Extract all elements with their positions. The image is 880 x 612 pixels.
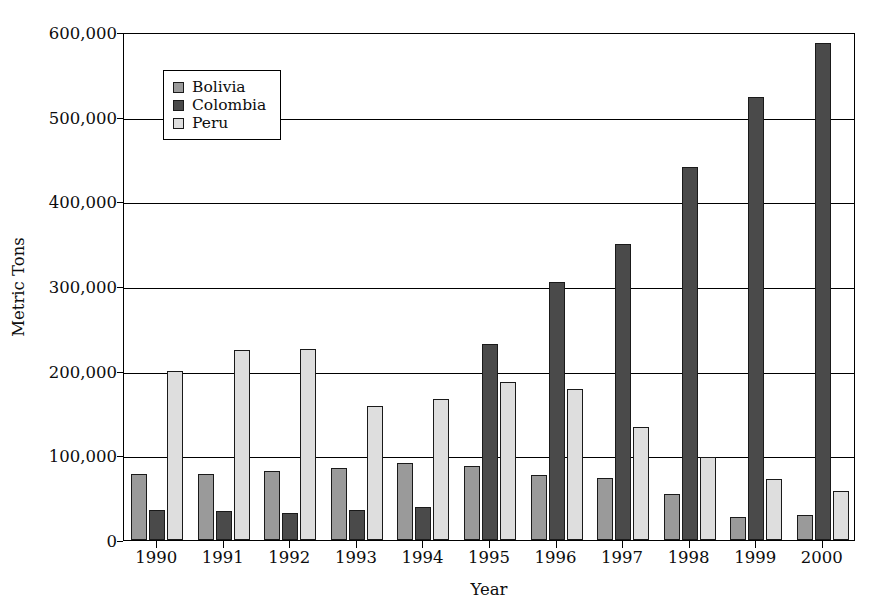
legend-label: Peru (192, 114, 228, 132)
bar-bolivia-1999 (730, 517, 746, 540)
bar-peru-1992 (300, 349, 316, 540)
bar-bolivia-1998 (664, 494, 680, 540)
x-axis-tick-mark (356, 541, 357, 548)
x-axis-title: Year (471, 580, 508, 599)
y-axis-tick-mark (117, 541, 123, 542)
x-axis-tick-label: 1995 (468, 548, 510, 567)
bar-bolivia-1990 (131, 474, 147, 540)
bar-bolivia-1996 (531, 475, 547, 540)
chart-legend: BoliviaColombiaPeru (163, 70, 281, 140)
y-axis-tick-label: 500,000 (0, 108, 117, 127)
x-axis-tick-mark (422, 541, 423, 548)
bar-peru-1993 (367, 406, 383, 540)
x-axis-tick-label: 1999 (734, 548, 776, 567)
x-axis-tick-mark (289, 541, 290, 548)
x-axis-tick-label: 1997 (601, 548, 643, 567)
bar-peru-2000 (833, 491, 849, 540)
x-axis-tick-label: 1996 (535, 548, 577, 567)
y-axis-tick-label: 600,000 (0, 24, 117, 43)
x-axis-tick-label: 1990 (135, 548, 177, 567)
x-axis-tick-label: 1994 (401, 548, 443, 567)
legend-label: Bolivia (192, 78, 246, 96)
bar-colombia-1994 (415, 507, 431, 540)
bar-colombia-1992 (282, 513, 298, 540)
x-axis-tick-label: 1992 (268, 548, 310, 567)
bar-peru-1997 (633, 427, 649, 540)
x-axis-tick-label: 1991 (202, 548, 244, 567)
bar-bolivia-1993 (331, 468, 347, 540)
x-axis-tick-label: 1993 (335, 548, 377, 567)
bar-colombia-1999 (748, 97, 764, 540)
chart-page: 0100,000200,000300,000400,000500,000600,… (0, 0, 880, 612)
bar-bolivia-2000 (797, 515, 813, 540)
x-axis-tick-labels: 1990199119921993199419951996199719981999… (123, 548, 855, 574)
legend-item-bolivia: Bolivia (173, 78, 271, 96)
bar-colombia-1996 (549, 282, 565, 540)
x-axis-tick-mark (223, 541, 224, 548)
y-axis-tick-label: 400,000 (0, 193, 117, 212)
legend-swatch-icon (173, 82, 184, 93)
bar-bolivia-1992 (264, 471, 280, 540)
bar-peru-1990 (167, 371, 183, 540)
bar-peru-1995 (500, 382, 516, 540)
bar-bolivia-1997 (597, 478, 613, 540)
y-axis-tick-label: 0 (0, 532, 117, 551)
y-axis-title: Metric Tons (9, 237, 28, 337)
legend-item-colombia: Colombia (173, 96, 271, 114)
x-axis-tick-label: 2000 (801, 548, 843, 567)
bar-peru-1996 (567, 389, 583, 540)
bar-colombia-1998 (682, 167, 698, 540)
y-axis-tick-label: 100,000 (0, 447, 117, 466)
bar-colombia-2000 (815, 43, 831, 540)
bar-peru-1999 (766, 479, 782, 540)
bar-colombia-1990 (149, 510, 165, 540)
legend-swatch-icon (173, 118, 184, 129)
bar-peru-1998 (700, 457, 716, 540)
x-axis-tick-label: 1998 (668, 548, 710, 567)
x-axis-tick-mark (622, 541, 623, 548)
x-axis-tick-mark (156, 541, 157, 548)
bar-peru-1991 (234, 350, 250, 541)
legend-item-peru: Peru (173, 114, 271, 132)
x-axis-tick-mark (489, 541, 490, 548)
bar-colombia-1995 (482, 344, 498, 540)
bar-colombia-1997 (615, 244, 631, 540)
gridline (124, 203, 854, 204)
bar-colombia-1993 (349, 510, 365, 540)
bar-bolivia-1994 (397, 463, 413, 540)
x-axis-tick-mark (556, 541, 557, 548)
bar-peru-1994 (433, 399, 449, 540)
gridline (124, 288, 854, 289)
x-axis-tick-mark (822, 541, 823, 548)
y-axis-tick-label: 200,000 (0, 362, 117, 381)
bar-colombia-1991 (216, 511, 232, 540)
bar-bolivia-1995 (464, 466, 480, 540)
x-axis-tick-mark (755, 541, 756, 548)
x-axis-tick-mark (689, 541, 690, 548)
legend-label: Colombia (192, 96, 266, 114)
bar-bolivia-1991 (198, 474, 214, 540)
legend-swatch-icon (173, 100, 184, 111)
